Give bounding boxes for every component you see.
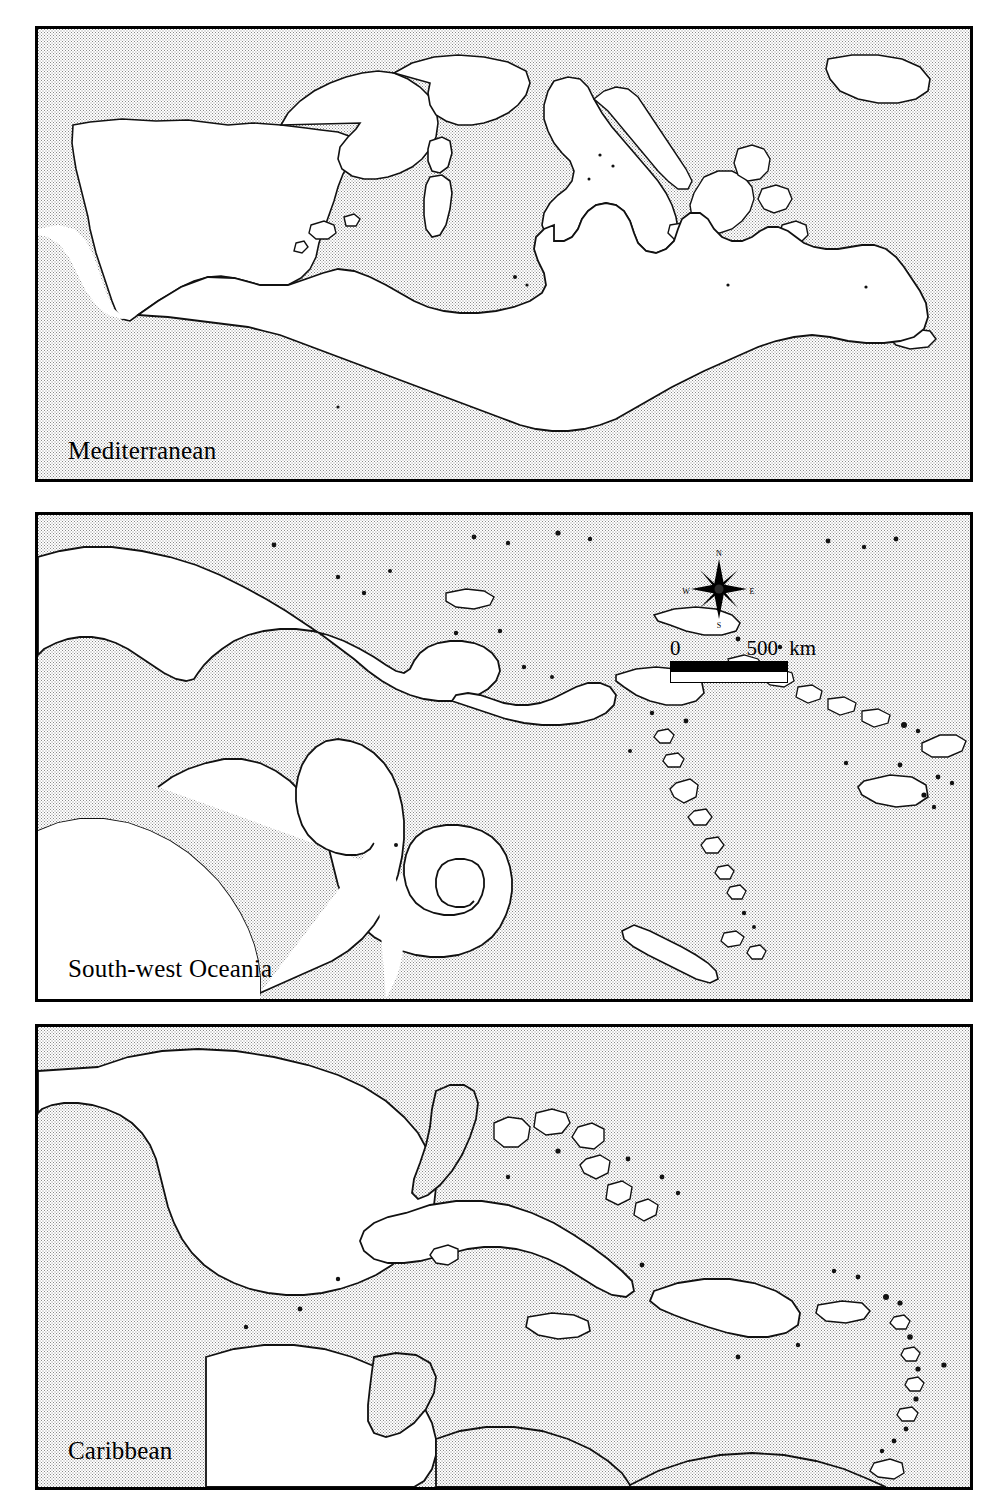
map-canvas-mediterranean: [38, 29, 970, 479]
panel-label-mediterranean: Mediterranean: [68, 437, 216, 465]
map-panel-mediterranean: Mediterranean: [35, 26, 973, 482]
compass-north-label: N: [716, 549, 722, 558]
scale-bar-segment-empty: [670, 672, 788, 683]
compass-rose: N S E W: [681, 547, 757, 631]
map-panel-caribbean: Caribbean: [35, 1024, 973, 1490]
scale-bar: 0 500 km: [668, 635, 818, 683]
scale-max-label: 500: [747, 636, 779, 661]
panel-label-oceania: South-west Oceania: [68, 955, 272, 983]
scale-bar-graphic: [670, 661, 788, 683]
scale-min-label: 0: [670, 636, 681, 661]
scale-unit-label: km: [789, 636, 816, 661]
scale-bar-segment-filled: [670, 661, 788, 672]
three-panel-map-figure: Mediterranean: [0, 0, 997, 1512]
compass-west-label: W: [682, 587, 690, 596]
panel-label-caribbean: Caribbean: [68, 1437, 173, 1465]
compass-east-label: E: [750, 587, 755, 596]
map-panel-oceania: N S E W 0: [35, 512, 973, 1002]
map-canvas-caribbean: [38, 1027, 970, 1487]
compass-south-label: S: [717, 621, 721, 630]
scale-bar-labels: 0 500 km: [668, 635, 818, 661]
map-canvas-oceania: [38, 515, 970, 999]
